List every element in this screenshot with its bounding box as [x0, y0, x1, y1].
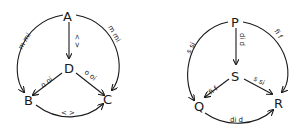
node-b: B [24, 93, 33, 108]
node-q: Q [194, 99, 204, 114]
node-d: D [64, 61, 74, 76]
label-s-q: fi f [207, 84, 220, 96]
label-a-b: m mi [17, 32, 33, 51]
node-a: A [63, 9, 72, 24]
label-s-r: s si [252, 75, 266, 87]
edge-a-b [17, 15, 63, 92]
node-r: R [274, 96, 283, 111]
label-a-d: < > [73, 34, 81, 48]
label-p-q: s si [185, 41, 197, 55]
label-p-s: di d [238, 33, 246, 46]
node-p: P [231, 15, 239, 30]
node-c: C [103, 92, 112, 107]
node-s: S [231, 69, 239, 84]
label-d-b: o oi [39, 75, 54, 89]
right-diagram: P S Q R s si fi f di d fi f s si di d [185, 15, 288, 124]
diagram-canvas: A D B C m mi m mi < > o oi o oi < > P S … [0, 0, 306, 131]
left-diagram: A D B C m mi m mi < > o oi o oi < > [17, 9, 122, 117]
label-b-c: < > [61, 109, 75, 117]
edge-p-q [188, 22, 228, 100]
label-q-r: di d [230, 116, 243, 124]
